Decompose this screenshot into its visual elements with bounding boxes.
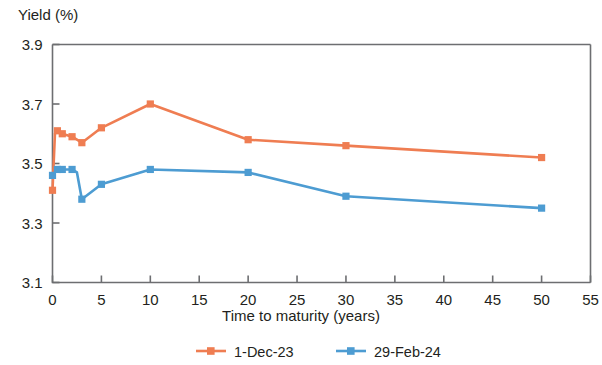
data-point-marker <box>98 181 105 188</box>
x-tick-label: 40 <box>435 291 452 308</box>
data-point-marker <box>538 154 545 161</box>
data-point-marker <box>78 196 85 203</box>
x-tick-label: 0 <box>48 291 56 308</box>
data-point-marker <box>68 133 75 140</box>
y-axis-title: Yield (%) <box>18 6 78 23</box>
x-tick-label: 25 <box>289 291 306 308</box>
data-point-marker <box>342 193 349 200</box>
x-tick-label: 20 <box>240 291 257 308</box>
y-tick-label: 3.5 <box>22 155 43 172</box>
legend-swatch-marker <box>207 347 215 355</box>
data-point-marker <box>59 166 66 173</box>
legend-swatch-marker <box>347 347 355 355</box>
y-tick-label: 3.9 <box>22 36 43 53</box>
data-point-marker <box>49 187 56 194</box>
data-point-marker <box>147 100 154 107</box>
x-tick-label: 35 <box>387 291 404 308</box>
data-point-marker <box>98 124 105 131</box>
x-tick-label: 50 <box>533 291 550 308</box>
data-point-marker <box>78 139 85 146</box>
yield-curve-chart: Yield (%) 3.13.33.53.73.9 05101520253035… <box>0 0 602 365</box>
x-axis-title: Time to maturity (years) <box>222 307 380 324</box>
data-point-marker <box>538 205 545 212</box>
x-tick-label: 15 <box>191 291 208 308</box>
y-tick-label: 3.7 <box>22 96 43 113</box>
data-point-marker <box>68 166 75 173</box>
data-point-marker <box>245 169 252 176</box>
x-tick-label: 45 <box>484 291 501 308</box>
y-tick-label: 3.1 <box>22 274 43 291</box>
legend-label: 1-Dec-23 <box>234 344 294 360</box>
data-point-marker <box>59 130 66 137</box>
x-tick-label: 30 <box>338 291 355 308</box>
data-point-marker <box>147 166 154 173</box>
x-tick-label: 10 <box>142 291 159 308</box>
data-point-marker <box>342 142 349 149</box>
x-tick-label: 55 <box>582 291 599 308</box>
x-tick-label: 5 <box>97 291 105 308</box>
legend-label: 29-Feb-24 <box>374 344 441 360</box>
data-point-marker <box>245 136 252 143</box>
y-tick-label: 3.3 <box>22 215 43 232</box>
